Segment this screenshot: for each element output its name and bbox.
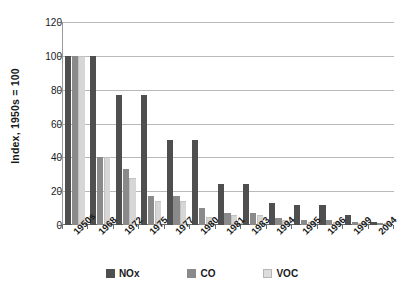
bar-group [291, 22, 316, 225]
bar-group [138, 22, 163, 225]
bar-voc-1950s [78, 56, 84, 225]
bar-nox-1972 [116, 95, 122, 225]
bar-group [240, 22, 265, 225]
bar-co-1972 [123, 169, 129, 225]
y-axis-title-label: Index, 1950s = 100 [9, 68, 21, 164]
y-axis-ticks: 020406080100120 [28, 22, 62, 225]
bar-co-1968 [97, 157, 103, 225]
bar-nox-1980 [192, 140, 198, 225]
bar-group [317, 22, 342, 225]
y-axis-title: Index, 1950s = 100 [0, 0, 30, 232]
legend-label: NOx [119, 268, 140, 279]
chart-legend: NOxCOVOC [0, 268, 404, 279]
bar-group [266, 22, 291, 225]
legend-label: CO [200, 268, 215, 279]
bar-group [215, 22, 240, 225]
bar-nox-1968 [90, 56, 96, 225]
plot-wrapper [62, 22, 393, 225]
legend-label: VOC [276, 268, 298, 279]
bar-group [342, 22, 367, 225]
legend-item-co[interactable]: CO [187, 268, 215, 279]
x-axis-labels: 1950s19681972197519771980198119831994199… [62, 229, 393, 265]
bars-layer [62, 22, 393, 225]
legend-swatch-icon-co [187, 269, 196, 278]
bar-nox-1975 [141, 95, 147, 225]
bar-nox-1977 [167, 140, 173, 225]
legend-item-voc[interactable]: VOC [263, 268, 298, 279]
bar-group [189, 22, 214, 225]
legend-swatch-icon-nox [106, 269, 115, 278]
bar-group [368, 22, 393, 225]
bar-group [87, 22, 112, 225]
emissions-index-bar-chart: Index, 1950s = 100 020406080100120 1950s… [0, 0, 404, 291]
bar-group [113, 22, 138, 225]
bar-co-1975 [148, 196, 154, 225]
bar-nox-1950s [65, 56, 71, 225]
legend-item-nox[interactable]: NOx [106, 268, 140, 279]
bar-group [164, 22, 189, 225]
bar-group [62, 22, 87, 225]
legend-swatch-icon-voc [263, 269, 272, 278]
bar-co-1950s [72, 56, 78, 225]
bar-co-1977 [173, 196, 179, 225]
